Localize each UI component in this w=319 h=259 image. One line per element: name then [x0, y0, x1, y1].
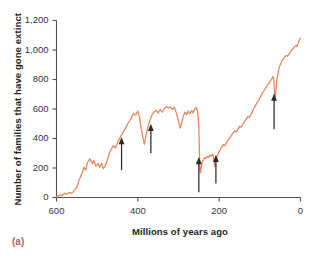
mass-extinction-arrow [271, 94, 277, 130]
arrow-head [196, 157, 202, 164]
y-tick-label: 0 [43, 191, 48, 202]
extinction-line-chart: 02004006008001,0001,200 6004002000 [0, 0, 319, 259]
y-tick-label: 1,000 [25, 44, 49, 55]
axis-group [57, 21, 301, 198]
x-tick-label: 0 [298, 205, 303, 216]
mass-extinction-arrow [196, 157, 202, 192]
y-tick-label: 400 [33, 132, 49, 143]
x-tick-group: 6004002000 [49, 198, 304, 216]
extinction-figure: 02004006008001,0001,200 6004002000 Numbe… [0, 0, 319, 259]
y-tick-label: 200 [33, 162, 49, 173]
x-tick-label: 200 [211, 205, 227, 216]
extinction-curve [57, 38, 301, 197]
y-tick-label: 1,200 [25, 14, 49, 25]
y-tick-group: 02004006008001,0001,200 [25, 14, 57, 202]
arrow-head [271, 94, 277, 101]
y-axis-title: Number of families that have gone extinc… [12, 16, 23, 206]
x-tick-label: 400 [130, 205, 146, 216]
y-tick-label: 800 [33, 73, 49, 84]
data-series-group [57, 38, 301, 197]
mass-extinction-arrow [148, 124, 154, 154]
mass-extinction-arrow [119, 137, 125, 170]
y-tick-label: 600 [33, 103, 49, 114]
panel-label: (a) [12, 236, 24, 247]
x-axis-title: Millions of years ago [55, 226, 305, 237]
x-tick-label: 600 [49, 205, 65, 216]
